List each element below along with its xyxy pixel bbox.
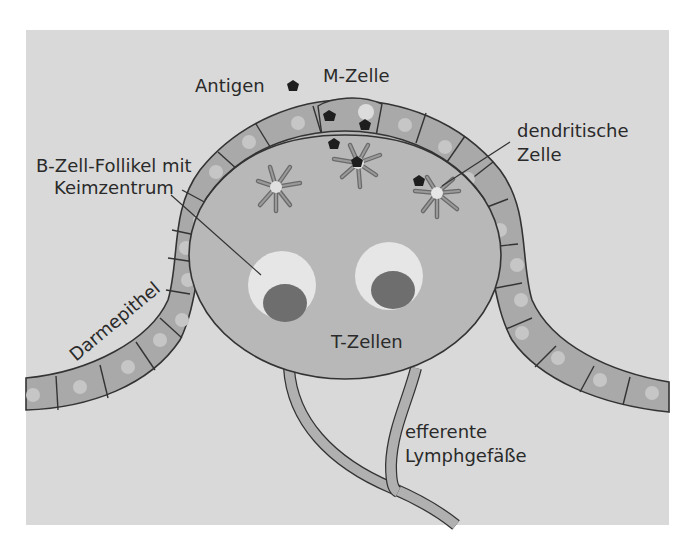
peyer-patch-diagram: Antigen M-Zelle B-Zell-Follikel mit Keim… <box>0 0 689 547</box>
b-cell-follicle-right <box>355 242 423 310</box>
label-b-follicle-1: B-Zell-Follikel mit <box>36 155 192 176</box>
label-lymph-2: Lymphgefäße <box>405 445 527 466</box>
label-dendritic-2: Zelle <box>517 144 561 165</box>
label-b-follicle-2: Keimzentrum <box>54 177 174 198</box>
label-t-cells: T-Zellen <box>330 331 403 352</box>
label-antigen: Antigen <box>195 75 265 96</box>
label-m-cell: M-Zelle <box>323 65 390 86</box>
label-dendritic-1: dendritische <box>517 120 629 141</box>
label-lymph-1: efferente <box>405 421 487 442</box>
